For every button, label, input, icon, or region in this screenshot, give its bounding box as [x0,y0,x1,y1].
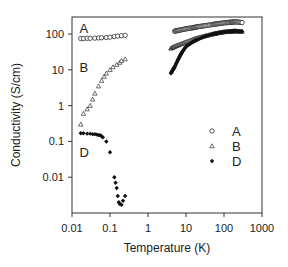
conductivity-chart: 0.010.111010010000.010.1110100 ABD ABD T… [0,0,288,267]
y-tick-label: 0.01 [43,171,64,183]
x-tick-label: 10 [180,222,192,234]
y-axis-label: Conductivity (S/cm) [9,63,23,167]
diamond-marker [121,199,125,203]
plot-frame [72,17,262,213]
legend-label: D [232,154,241,169]
triangle-marker [90,97,94,101]
legend-item-A: A [210,124,241,139]
circle-marker [88,36,92,40]
x-tick-label: 1000 [250,222,274,234]
diamond-marker [108,150,112,154]
series-A [79,20,245,41]
triangle-marker [93,91,97,95]
legend-item-B: B [210,139,241,154]
x-tick-label: 0.1 [102,222,117,234]
y-tick-label: 100 [46,28,64,40]
series-label-B: B [79,60,88,75]
y-tick-label: 1 [58,100,64,112]
diamond-marker [114,186,118,190]
y-tick-label: 10 [52,64,64,76]
series-label-A: A [79,21,88,36]
legend: ABD [210,124,242,169]
y-tick-label: 0.1 [49,135,64,147]
circle-marker [123,33,127,37]
diamond-marker [116,194,120,198]
triangle-marker [88,103,92,107]
series-label-D: D [79,145,88,160]
triangle-marker [99,78,103,82]
x-tick-label: 100 [215,222,233,234]
data-points [79,20,245,207]
triangle-marker [96,84,100,88]
x-axis-label: Temperature (K) [124,241,211,255]
series-D [79,29,245,207]
diamond-marker [113,181,117,185]
series-B [79,29,245,126]
circle-marker [240,20,244,24]
triangle-marker [210,144,214,148]
chart-svg: 0.010.111010010000.010.1110100 ABD ABD T… [0,0,288,267]
triangle-marker [81,111,85,115]
x-tick-label: 0.01 [61,222,82,234]
legend-label: B [232,139,241,154]
diamond-marker [210,159,214,163]
circle-marker [210,129,214,133]
triangle-marker [79,122,83,126]
series-annotations: ABD [79,21,88,160]
x-tick-label: 1 [145,222,151,234]
legend-label: A [232,124,241,139]
diamond-marker [81,131,85,135]
legend-item-D: D [210,154,242,169]
triangle-marker [111,65,115,69]
diamond-marker [104,139,108,143]
triangle-marker [123,57,127,61]
circle-marker [99,36,103,40]
diamond-marker [112,175,116,179]
diamond-marker [123,194,127,198]
circle-marker [108,35,112,39]
